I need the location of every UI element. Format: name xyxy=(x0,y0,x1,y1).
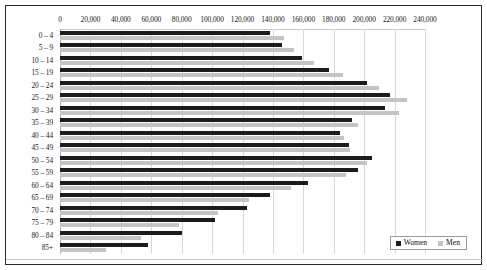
bar-men xyxy=(60,248,106,252)
bar-men xyxy=(60,223,179,227)
chart-legend: Women Men xyxy=(390,236,467,250)
bar-group xyxy=(60,92,425,105)
bar-men xyxy=(60,73,343,77)
x-tick-label: 40,000 xyxy=(111,15,131,24)
legend-label-men: Men xyxy=(446,239,460,247)
x-axis-tick-labels: 020,00040,00060,00080,000100,000120,0001… xyxy=(6,15,483,29)
y-tick-label: 70 – 74 xyxy=(32,206,53,215)
bar-women xyxy=(60,181,308,185)
bar-men xyxy=(60,136,344,140)
bar-women xyxy=(60,206,247,210)
y-tick-label: 45 – 49 xyxy=(32,143,53,152)
bar-women xyxy=(60,118,352,122)
bar-men xyxy=(60,173,346,177)
y-tick-label: 0 – 4 xyxy=(39,31,53,40)
plot-bottom-rule xyxy=(6,259,483,260)
x-tick-label: 80,000 xyxy=(172,15,192,24)
gridline-240000 xyxy=(425,29,426,254)
bar-women xyxy=(60,56,302,60)
bar-group xyxy=(60,104,425,117)
bar-women xyxy=(60,106,385,110)
legend-label-women: Women xyxy=(404,239,427,247)
bar-men xyxy=(60,161,367,165)
y-tick-label: 55 – 59 xyxy=(32,168,53,177)
x-tick-label: 160,000 xyxy=(292,15,315,24)
bar-men xyxy=(60,198,249,202)
plot-area xyxy=(60,29,425,254)
bar-group xyxy=(60,142,425,155)
bar-men xyxy=(60,61,314,65)
legend-entry-women: Women xyxy=(396,239,427,247)
bar-group xyxy=(60,204,425,217)
x-tick-label: 120,000 xyxy=(231,15,254,24)
bar-women xyxy=(60,31,270,35)
bar-women xyxy=(60,168,358,172)
x-tick-label: 200,000 xyxy=(352,15,375,24)
bar-group xyxy=(60,229,425,242)
bar-women xyxy=(60,131,340,135)
bar-group xyxy=(60,42,425,55)
bar-men xyxy=(60,186,291,190)
bar-men xyxy=(60,111,399,115)
bar-men xyxy=(60,48,294,52)
x-tick-label: 60,000 xyxy=(141,15,161,24)
y-tick-label: 25 – 29 xyxy=(32,93,53,102)
x-tick-label: 240,000 xyxy=(413,15,436,24)
bar-group xyxy=(60,192,425,205)
bar-women xyxy=(60,81,367,85)
bar-women xyxy=(60,93,390,97)
bar-group xyxy=(60,29,425,42)
bar-men xyxy=(60,36,284,40)
y-tick-label: 50 – 54 xyxy=(32,156,53,165)
bar-group xyxy=(60,242,425,255)
x-tick-label: 180,000 xyxy=(322,15,345,24)
legend-swatch-men-icon xyxy=(438,241,443,246)
y-tick-label: 5 – 9 xyxy=(39,43,53,52)
y-tick-label: 20 – 24 xyxy=(32,81,53,90)
bar-men xyxy=(60,98,407,102)
x-tick-label: 100,000 xyxy=(200,15,223,24)
bar-women xyxy=(60,243,148,247)
bar-women xyxy=(60,231,182,235)
bar-group xyxy=(60,154,425,167)
bar-women xyxy=(60,143,349,147)
bar-group xyxy=(60,117,425,130)
bar-women xyxy=(60,43,282,47)
y-tick-label: 75 – 79 xyxy=(32,218,53,227)
bar-men xyxy=(60,148,350,152)
bar-group xyxy=(60,54,425,67)
y-tick-label: 15 – 19 xyxy=(32,68,53,77)
y-tick-label: 80 – 84 xyxy=(32,231,53,240)
bar-women xyxy=(60,193,270,197)
y-axis-tick-labels: 0 – 45 – 910 – 1415 – 1920 – 2425 – 2930… xyxy=(6,29,57,254)
bar-group xyxy=(60,179,425,192)
bar-group xyxy=(60,67,425,80)
bar-women xyxy=(60,156,372,160)
bar-men xyxy=(60,236,141,240)
legend-entry-men: Men xyxy=(438,239,460,247)
x-tick-label: 0 xyxy=(58,15,62,24)
y-tick-label: 65 – 69 xyxy=(32,193,53,202)
y-tick-label: 60 – 64 xyxy=(32,181,53,190)
chart-frame: 020,00040,00060,00080,000100,000120,0001… xyxy=(5,5,482,265)
bar-group xyxy=(60,167,425,180)
bar-group xyxy=(60,217,425,230)
x-tick-label: 20,000 xyxy=(81,15,101,24)
bar-men xyxy=(60,211,218,215)
y-tick-label: 30 – 34 xyxy=(32,106,53,115)
legend-swatch-women-icon xyxy=(396,241,401,246)
chart-canvas: 020,00040,00060,00080,000100,000120,0001… xyxy=(6,6,481,264)
bar-men xyxy=(60,123,358,127)
bar-group xyxy=(60,79,425,92)
bar-women xyxy=(60,68,329,72)
y-tick-label: 85+ xyxy=(42,243,53,252)
y-tick-label: 40 – 44 xyxy=(32,131,53,140)
bar-men xyxy=(60,86,379,90)
x-tick-label: 220,000 xyxy=(383,15,406,24)
y-tick-label: 35 – 39 xyxy=(32,118,53,127)
x-tick-label: 140,000 xyxy=(261,15,284,24)
y-tick-label: 10 – 14 xyxy=(32,56,53,65)
bar-group xyxy=(60,129,425,142)
bar-women xyxy=(60,218,215,222)
